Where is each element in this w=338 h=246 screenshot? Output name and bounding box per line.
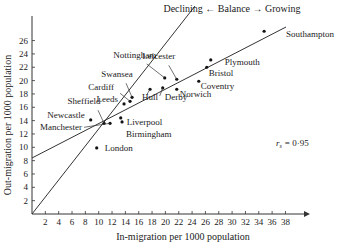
data-point xyxy=(120,120,123,123)
x-tick-label: 32 xyxy=(241,217,250,227)
point-label: Cardiff xyxy=(88,82,114,92)
data-point xyxy=(119,116,122,119)
x-tick-label: 8 xyxy=(83,217,88,227)
point-label: Plymouth xyxy=(225,57,261,67)
data-points: SouthamptonPlymouthBristolCoventryLeices… xyxy=(40,29,335,153)
y-tick-label: 22 xyxy=(19,62,28,72)
point-label: Sheffield xyxy=(68,96,101,106)
x-tick-label: 24 xyxy=(188,217,198,227)
leader-line xyxy=(147,64,165,78)
point-label: Newcastle xyxy=(47,110,84,120)
y-tick-label: 6 xyxy=(24,169,29,179)
y-tick-label: 20 xyxy=(19,76,29,86)
x-tick-label: 38 xyxy=(281,217,291,227)
y-tick-label: 12 xyxy=(19,129,28,139)
x-tick-label: 18 xyxy=(148,217,158,227)
y-tick-label: 24 xyxy=(19,49,29,59)
leader-line xyxy=(169,65,177,79)
x-tick-label: 14 xyxy=(121,217,131,227)
data-point xyxy=(263,30,266,33)
scatter-chart: 2468101214161820222426283032343638246810… xyxy=(0,0,338,246)
leader-line xyxy=(126,83,132,97)
data-point xyxy=(89,118,92,121)
y-tick-label: 26 xyxy=(19,36,29,46)
x-tick-label: 26 xyxy=(201,217,211,227)
y-tick-label: 10 xyxy=(19,142,29,152)
point-label: Southampton xyxy=(286,29,335,39)
x-axis-label: In-migration per 1000 population xyxy=(116,231,250,242)
x-tick-label: 20 xyxy=(161,217,171,227)
y-tick-label: 14 xyxy=(19,116,29,126)
y-tick-label: 18 xyxy=(19,89,29,99)
data-point xyxy=(209,58,212,61)
x-tick-label: 34 xyxy=(254,217,264,227)
data-point xyxy=(122,102,125,105)
x-tick-label: 30 xyxy=(228,217,238,227)
point-label: Birmingham xyxy=(126,129,172,139)
point-label: Hull xyxy=(142,92,159,102)
leader-line xyxy=(98,110,104,123)
x-tick-label: 10 xyxy=(94,217,104,227)
point-label: Manchester xyxy=(40,122,82,132)
x-tick-label: 28 xyxy=(214,217,224,227)
y-tick-label: 2 xyxy=(24,196,29,206)
data-point xyxy=(95,146,98,149)
y-tick-label: 8 xyxy=(24,156,29,166)
point-label: Swansea xyxy=(101,69,133,79)
x-tick-label: 22 xyxy=(174,217,183,227)
point-label: Nottingham xyxy=(113,50,156,60)
x-tick-label: 36 xyxy=(268,217,278,227)
x-tick-label: 4 xyxy=(56,217,61,227)
x-tick-label: 16 xyxy=(134,217,144,227)
y-tick-label: 4 xyxy=(24,182,29,192)
point-label: London xyxy=(105,143,133,153)
x-tick-label: 2 xyxy=(43,217,48,227)
y-tick-label: 16 xyxy=(19,102,29,112)
point-label: Liverpool xyxy=(127,117,163,127)
x-tick-label: 6 xyxy=(70,217,75,227)
y-axis-label: Out-migration per 1000 population xyxy=(2,55,13,195)
x-tick-label: 12 xyxy=(108,217,117,227)
correlation-label: rs= 0·95 xyxy=(276,138,309,149)
data-point xyxy=(175,88,178,91)
point-label: Derby xyxy=(165,92,188,102)
x-axis-arrow-icon xyxy=(304,211,310,217)
point-label: Bristol xyxy=(209,68,234,78)
balance-annotation: Declining ← Balance → Growing xyxy=(163,3,300,14)
